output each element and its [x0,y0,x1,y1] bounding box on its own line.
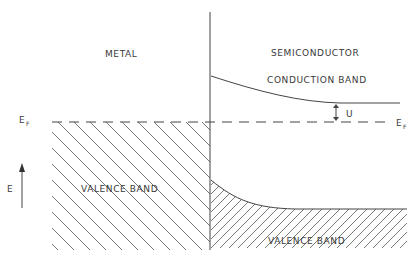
metal-valence-band-label: VALENCE BAND [81,184,158,194]
conduction-band-label: CONDUCTION BAND [267,75,367,85]
energy-axis-label: E [7,184,13,194]
band-diagram: METAL SEMICONDUCTOR CONDUCTION BAND VALE… [0,0,419,262]
metal-label: METAL [105,49,137,59]
gap-label: U [346,109,353,119]
fermi-label-left: E F [19,115,30,127]
arrow-up-icon [333,104,339,108]
svg-text:F: F [26,120,30,127]
svg-text:E: E [19,115,25,125]
semiconductor-label: SEMICONDUCTOR [271,48,359,58]
arrow-up-icon [19,163,25,172]
svg-text:F: F [403,123,407,130]
semiconductor-valence-band-label: VALENCE BAND [268,236,345,246]
gap-marker [333,104,339,121]
energy-axis [19,163,25,208]
svg-text:E: E [396,118,402,128]
arrow-down-icon [333,117,339,121]
fermi-label-right: E F [396,118,407,130]
